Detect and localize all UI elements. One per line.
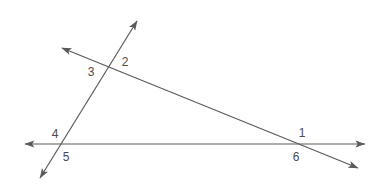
angle-label-6: 6 — [293, 151, 300, 163]
angle-label-4: 4 — [52, 128, 59, 140]
angle-label-2: 2 — [122, 56, 129, 68]
angle-label-5: 5 — [63, 151, 70, 163]
geometry-diagram-canvas — [0, 0, 382, 189]
angle-label-1: 1 — [299, 127, 306, 139]
transversal-line — [62, 48, 358, 168]
geometry-figure: 1 2 3 4 5 6 — [0, 0, 382, 189]
steep-line — [40, 21, 137, 178]
lines-group — [25, 21, 365, 178]
angle-label-3: 3 — [88, 66, 95, 78]
